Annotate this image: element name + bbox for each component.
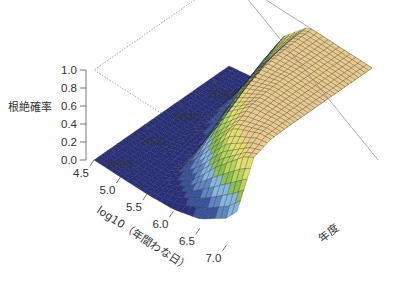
y-axis-title: log10（年間わな日） [94,203,192,273]
box-edge-dotted [94,0,229,70]
y-tick-label: 7.0 [205,252,221,264]
y-tick-mark [116,177,120,183]
y-tick-mark [222,245,226,251]
y-tick-mark [196,228,200,234]
z-axis-title: 根絶確率 [8,100,52,114]
x-tick-label: 2040 [174,111,200,123]
y-tick-mark [143,194,147,200]
x-tick-label: 2030 [141,135,167,147]
y-tick-label: 4.5 [73,167,89,179]
y-tick-mark [169,211,173,217]
surface-plot: 0.00.20.40.60.81.0 根絶確率 4.55.05.56.06.57… [0,0,395,283]
z-tick-label: 1.0 [61,64,77,76]
y-tick-label: 6.5 [179,235,195,247]
y-tick-label: 6.0 [152,218,168,230]
z-tick-label: 0.4 [61,118,78,130]
x-axis-title: 年度 [315,221,341,246]
y-tick-label: 5.0 [99,184,115,196]
x-tick-label: 2020 [107,158,133,170]
z-axis-ticks: 0.00.20.40.60.81.0 [61,64,86,166]
z-tick-label: 0.0 [61,154,77,166]
z-tick-label: 0.2 [61,136,77,148]
z-axis: 0.00.20.40.60.81.0 根絶確率 [8,64,86,166]
y-tick-mark [90,160,94,166]
surface-mesh [94,28,372,219]
z-tick-label: 0.6 [61,100,77,112]
y-tick-label: 5.5 [126,201,142,213]
x-tick-label: 2050 [208,88,234,100]
z-tick-label: 0.8 [61,82,77,94]
